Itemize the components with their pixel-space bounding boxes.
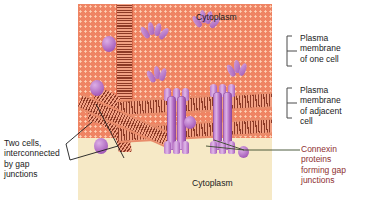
leader-line-two-cells-upper [66, 122, 92, 144]
cytoplasm-label-bottom: Cytoplasm [192, 178, 233, 188]
bracket-plasma-membrane-adjacent-cell [287, 88, 297, 118]
leader-line-membrane-pointer [96, 104, 124, 158]
label-two-cells-interconnected: Two cells, interconnected by gap junctio… [4, 138, 60, 179]
cytoplasm-label-top: Cytoplasm [196, 12, 237, 22]
label-connexin-proteins: Connexin proteins forming gap junctions [301, 144, 346, 185]
bracket-plasma-membrane-one-cell [287, 36, 297, 66]
leader-line-two-cells-lower [66, 144, 118, 160]
label-plasma-membrane-adjacent-cell: Plasma membrane of adjacent cell [300, 85, 342, 126]
gap-junction-figure: Cytoplasm Cytoplasm Plasma membrane of o… [0, 0, 379, 202]
label-plasma-membrane-one-cell: Plasma membrane of one cell [300, 33, 341, 64]
